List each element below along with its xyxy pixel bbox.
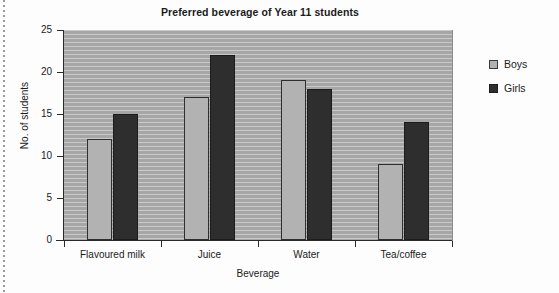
y-axis-tick-mark [57,30,64,31]
bar-boys-water [281,80,306,240]
x-axis-line [56,240,453,241]
y-axis-line [63,30,64,241]
page-margin-dotted-rule [3,0,5,293]
bar-girls-tea-coffee [404,122,429,240]
legend-label: Boys [504,58,527,70]
plot-area [64,30,452,240]
y-axis-tick: 10 [0,156,64,157]
y-axis-tick-label: 5 [22,192,52,203]
x-axis-tick-mark [355,241,356,247]
x-axis-category-label: Juice [161,249,258,260]
y-axis-tick-mark [57,198,64,199]
y-axis-tick-mark [57,114,64,115]
bar-boys-juice [184,97,209,240]
y-axis-tick: 20 [0,72,64,73]
x-axis-tick-mark [161,241,162,247]
y-axis-tick-label: 25 [22,24,52,35]
y-axis-tick-mark [57,156,64,157]
bar-girls-water [307,89,332,240]
y-axis-tick-mark [57,240,64,241]
x-axis-tick-mark [258,241,259,247]
legend-label: Girls [504,82,526,94]
y-axis-tick: 15 [0,114,64,115]
x-axis-tick-mark [64,241,65,247]
y-axis-tick: 5 [0,198,64,199]
bar-girls-juice [210,55,235,240]
y-axis-title: No. of students [19,46,30,186]
legend-swatch-boys-icon [489,60,498,69]
y-axis-tick-mark [57,72,64,73]
x-axis-tick-mark [452,241,453,247]
x-axis-category-label: Tea/coffee [355,249,452,260]
x-axis-category-label: Water [258,249,355,260]
bar-boys-flavoured-milk [87,139,112,240]
chart-title: Preferred beverage of Year 11 students [60,6,460,18]
legend-item-girls[interactable]: Girls [489,82,527,94]
chart-legend: BoysGirls [489,58,527,106]
legend-item-boys[interactable]: Boys [489,58,527,70]
bar-girls-flavoured-milk [113,114,138,240]
chart-page: Preferred beverage of Year 11 students 2… [0,0,559,293]
plot-right-edge [452,30,453,241]
legend-swatch-girls-icon [489,84,498,93]
bar-boys-tea-coffee [378,164,403,240]
y-axis-tick: 25 [0,30,64,31]
y-axis-tick: 0 [0,240,64,241]
y-axis-tick-label: 0 [22,234,52,245]
x-axis-category-label: Flavoured milk [64,249,161,260]
x-axis-title: Beverage [64,268,452,279]
